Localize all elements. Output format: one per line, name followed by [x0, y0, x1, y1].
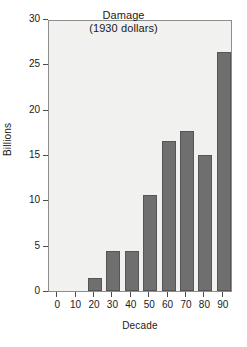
x-tick-mark — [222, 292, 223, 297]
y-tick-mark — [43, 19, 48, 20]
x-tick-label: 90 — [213, 299, 233, 311]
x-tick-label: 20 — [84, 299, 104, 311]
bars-layer — [49, 21, 231, 291]
y-tick-label: 15 — [29, 149, 40, 161]
x-tick-label: 30 — [102, 299, 122, 311]
x-tick-mark — [75, 292, 76, 297]
x-tick-mark — [93, 292, 94, 297]
bar-decade-80 — [198, 155, 212, 291]
plot-area — [48, 20, 232, 292]
y-axis-title: Billions — [2, 123, 13, 156]
bar-decade-60 — [162, 141, 176, 292]
x-tick-mark — [56, 292, 57, 297]
x-tick-label: 60 — [158, 299, 178, 311]
bar-decade-40 — [125, 251, 139, 291]
x-tick-label: 80 — [194, 299, 214, 311]
x-tick-label: 50 — [139, 299, 159, 311]
bar-decade-70 — [180, 131, 194, 291]
bar-decade-50 — [143, 195, 157, 291]
bar-decade-90 — [217, 52, 231, 291]
x-axis-title: Decade — [48, 320, 232, 332]
x-tick-label: 10 — [66, 299, 86, 311]
y-tick-label: 25 — [29, 58, 40, 70]
x-tick-mark — [185, 292, 186, 297]
y-tick-mark — [43, 110, 48, 111]
x-tick-label: 0 — [47, 299, 67, 311]
y-tick-mark — [43, 155, 48, 156]
x-tick-mark — [203, 292, 204, 297]
y-tick-label: 30 — [29, 13, 40, 25]
y-tick-mark — [43, 246, 48, 247]
y-tick-label: 20 — [29, 104, 40, 116]
x-tick-label: 70 — [176, 299, 196, 311]
y-tick-label: 5 — [34, 240, 40, 252]
y-tick-mark — [43, 200, 48, 201]
bar-chart-figure: Damage (1930 dollars) 051015202530 Billi… — [0, 0, 247, 347]
x-tick-mark — [130, 292, 131, 297]
bar-decade-20 — [88, 278, 102, 291]
x-axis: Decade 0102030405060708090 — [0, 292, 247, 347]
y-tick-mark — [43, 64, 48, 65]
x-tick-mark — [111, 292, 112, 297]
x-tick-label: 40 — [121, 299, 141, 311]
y-tick-label: 10 — [29, 194, 40, 206]
x-tick-mark — [148, 292, 149, 297]
bar-decade-30 — [106, 251, 120, 291]
x-tick-mark — [167, 292, 168, 297]
